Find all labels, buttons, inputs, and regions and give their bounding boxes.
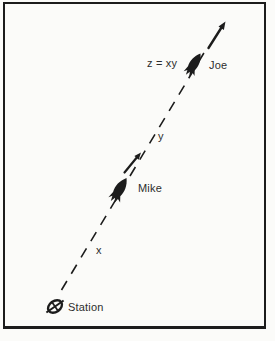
station-label: Station [68, 301, 104, 314]
figure-canvas: z = xy Joe y Mike x Station [0, 0, 275, 341]
joe-label: Joe [209, 59, 227, 72]
equation-label: z = xy [147, 57, 177, 70]
mike-label: Mike [138, 182, 162, 195]
rocket-icon [107, 175, 132, 205]
arrow-up-right-icon [209, 22, 226, 49]
trajectory-dashed-line [62, 47, 208, 290]
segment-y-label: y [158, 130, 164, 143]
trajectory-diagram [0, 0, 275, 341]
segment-x-label: x [96, 244, 102, 257]
station-marker-icon [43, 295, 67, 317]
arrow-up-right-icon [125, 153, 142, 173]
